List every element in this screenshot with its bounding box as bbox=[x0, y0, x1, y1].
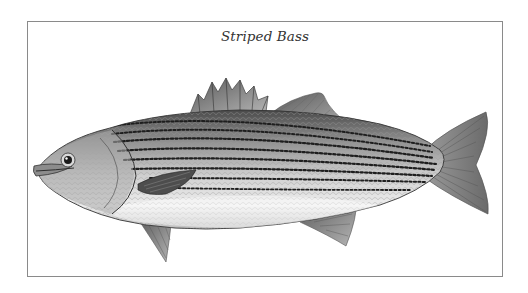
striped-bass-illustration bbox=[0, 0, 528, 293]
fish-head bbox=[33, 130, 136, 214]
spiny-dorsal-fin bbox=[190, 78, 268, 114]
